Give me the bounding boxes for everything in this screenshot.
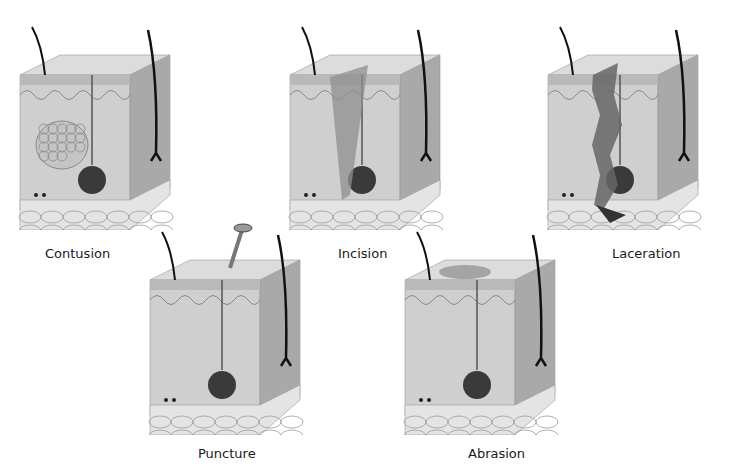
panel-incision — [280, 15, 450, 230]
panel-laceration — [538, 15, 708, 230]
sweat-gland-icon — [463, 371, 491, 399]
panel-contusion — [10, 15, 180, 230]
label-abrasion: Abrasion — [468, 446, 525, 461]
label-contusion: Contusion — [45, 246, 110, 261]
label-laceration: Laceration — [612, 246, 681, 261]
skin-front-face — [405, 280, 515, 415]
skin-front-face — [150, 280, 260, 415]
epidermis-layer — [20, 75, 130, 85]
epidermis-layer — [150, 280, 260, 290]
bruise-icon — [36, 121, 88, 169]
panel-abrasion — [395, 220, 565, 435]
sweat-gland-icon — [78, 166, 106, 194]
abrasion-scrape-icon — [439, 265, 491, 279]
sweat-gland-icon — [208, 371, 236, 399]
epidermis-layer — [405, 280, 515, 290]
figure-caption — [4, 466, 464, 475]
panel-puncture — [140, 220, 310, 435]
label-puncture: Puncture — [198, 446, 256, 461]
label-incision: Incision — [338, 246, 387, 261]
